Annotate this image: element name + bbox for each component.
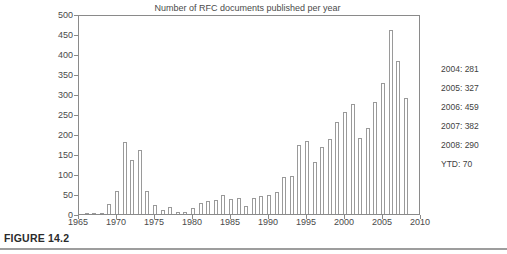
- y-tick-mark: [74, 135, 78, 136]
- y-tick-label: 200: [40, 130, 73, 140]
- bar: [389, 30, 393, 214]
- y-tick-label: 150: [40, 150, 73, 160]
- annotation-item: 2008: 290: [441, 136, 507, 155]
- y-tick-label: 300: [40, 90, 73, 100]
- x-tick-mark: [116, 215, 117, 219]
- bar: [161, 210, 165, 214]
- annotation-item: 2006: 459: [441, 98, 507, 117]
- bar: [267, 195, 271, 214]
- bar: [138, 150, 142, 214]
- bar: [259, 196, 263, 214]
- bar: [305, 141, 309, 214]
- bar: [351, 104, 355, 214]
- y-tick-label: 500: [40, 10, 73, 20]
- bar: [153, 205, 157, 214]
- bar: [92, 213, 96, 214]
- bar: [290, 176, 294, 214]
- bar: [313, 162, 317, 214]
- y-tick-mark: [74, 115, 78, 116]
- bar: [404, 98, 408, 214]
- caption-divider: [0, 248, 507, 250]
- chart-title: Number of RFC documents published per ye…: [75, 3, 420, 13]
- bar: [366, 128, 370, 214]
- figure-caption: FIGURE 14.2: [4, 232, 69, 244]
- x-tick-mark: [230, 215, 231, 219]
- plot-area: [78, 15, 420, 215]
- bar: [335, 122, 339, 214]
- bar: [244, 206, 248, 214]
- x-tick-mark: [268, 215, 269, 219]
- y-tick-label: 400: [40, 50, 73, 60]
- bar: [206, 201, 210, 214]
- bar: [282, 177, 286, 214]
- annotation-list: 2004: 2812005: 3272006: 4592007: 3822008…: [441, 60, 507, 174]
- y-tick-label: 100: [40, 170, 73, 180]
- bar-series: [79, 16, 419, 214]
- y-tick-mark: [74, 95, 78, 96]
- x-tick-mark: [306, 215, 307, 219]
- bar: [145, 191, 149, 214]
- bar: [381, 83, 385, 214]
- bar: [275, 192, 279, 214]
- annotation-item: 2004: 281: [441, 60, 507, 79]
- bar: [100, 213, 104, 214]
- x-tick-mark: [192, 215, 193, 219]
- annotation-item: 2005: 327: [441, 79, 507, 98]
- bar: [237, 198, 241, 214]
- y-tick-mark: [74, 75, 78, 76]
- bar: [373, 102, 377, 214]
- bar: [115, 191, 119, 214]
- bar: [168, 207, 172, 214]
- y-tick-mark: [74, 35, 78, 36]
- y-tick-mark: [74, 175, 78, 176]
- y-tick-label: 50: [40, 190, 73, 200]
- bar: [199, 203, 203, 214]
- x-axis: 1965197019751980198519901995200020052010: [0, 217, 507, 231]
- y-tick-mark: [74, 195, 78, 196]
- bar: [221, 195, 225, 214]
- x-tick-mark: [344, 215, 345, 219]
- bar: [297, 145, 301, 214]
- bar: [123, 142, 127, 214]
- x-tick-mark: [382, 215, 383, 219]
- annotation-item: YTD: 70: [441, 155, 507, 174]
- bar: [396, 61, 400, 214]
- y-tick-mark: [74, 55, 78, 56]
- bar: [328, 139, 332, 214]
- x-tick-mark: [420, 215, 421, 219]
- bar: [85, 213, 89, 214]
- y-tick-mark: [74, 155, 78, 156]
- bar: [320, 147, 324, 214]
- bar: [252, 198, 256, 214]
- y-tick-label: 250: [40, 110, 73, 120]
- x-tick-mark: [154, 215, 155, 219]
- bar: [343, 112, 347, 214]
- y-tick-label: 350: [40, 70, 73, 80]
- annotation-item: 2007: 382: [441, 117, 507, 136]
- bar: [176, 212, 180, 214]
- bar: [191, 208, 195, 214]
- y-tick-mark: [74, 15, 78, 16]
- x-tick-mark: [78, 215, 79, 219]
- bar: [183, 212, 187, 214]
- bar: [107, 204, 111, 214]
- y-tick-label: 450: [40, 30, 73, 40]
- bar: [214, 200, 218, 214]
- bar: [130, 160, 134, 214]
- y-axis: 050100150200250300350400450500: [40, 15, 73, 215]
- bar: [358, 138, 362, 214]
- bar: [229, 199, 233, 214]
- figure-container: Number of RFC documents published per ye…: [0, 0, 507, 254]
